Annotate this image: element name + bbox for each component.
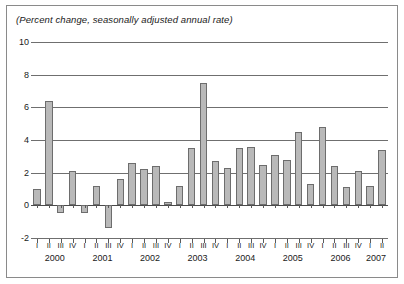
quarter-tick: [108, 205, 109, 208]
axis-tick: [61, 239, 62, 243]
axis-tick: [239, 239, 240, 243]
bar: [33, 189, 40, 205]
quarter-tick: [73, 205, 74, 208]
axis-tick: [204, 239, 205, 243]
bar: [355, 171, 362, 205]
quarter-tick: [180, 205, 181, 208]
axis-tick: [37, 239, 38, 243]
bar: [366, 186, 373, 206]
axis-tick: [311, 239, 312, 243]
quarter-tick: [311, 205, 312, 208]
quarter-tick: [120, 205, 121, 208]
chart-figure: (Percent change, seasonally adjusted ann…: [0, 0, 404, 284]
bar: [331, 166, 338, 205]
quarter-tick: [358, 205, 359, 208]
axis-tick: [192, 239, 193, 243]
axis-tick: [180, 239, 181, 243]
quarter-tick: [299, 205, 300, 208]
bar: [200, 83, 207, 206]
year-label: 2007: [366, 253, 386, 263]
plot-area: [31, 42, 388, 238]
year-label: 2006: [330, 253, 350, 263]
axis-tick: [346, 239, 347, 243]
year-label: 2000: [45, 253, 65, 263]
bar: [259, 165, 266, 206]
bar: [307, 184, 314, 205]
axis-tick: [73, 239, 74, 243]
year-label: 2001: [92, 253, 112, 263]
axis-tick: [96, 239, 97, 243]
bar: [188, 148, 195, 205]
axis-tick: [144, 239, 145, 243]
quarter-tick: [132, 205, 133, 208]
quarter-tick: [382, 205, 383, 208]
quarter-tick: [85, 205, 86, 208]
bar: [140, 169, 147, 205]
y-tick-label: 4: [3, 135, 29, 145]
quarter-tick: [156, 205, 157, 208]
axis-tick: [85, 239, 86, 243]
x-axis-labels: IIIIIIIV2000IIIIIIIV2001IIIIIIIV2002IIII…: [31, 239, 388, 279]
bar: [212, 161, 219, 205]
y-tick-label: 10: [3, 37, 29, 47]
quarter-tick: [215, 205, 216, 208]
bar: [128, 163, 135, 205]
quarter-tick: [227, 205, 228, 208]
axis-tick: [215, 239, 216, 243]
quarter-tick: [370, 205, 371, 208]
quarter-tick: [334, 205, 335, 208]
year-label: 2005: [283, 253, 303, 263]
year-label: 2002: [140, 253, 160, 263]
axis-tick: [227, 239, 228, 243]
bar: [378, 150, 385, 206]
axis-tick: [358, 239, 359, 243]
axis-tick: [168, 239, 169, 243]
bar: [69, 171, 76, 205]
bar: [152, 166, 159, 205]
quarter-tick: [263, 205, 264, 208]
axis-tick: [120, 239, 121, 243]
axis-tick: [382, 239, 383, 243]
axis-tick: [108, 239, 109, 243]
bar: [283, 160, 290, 206]
axis-tick: [251, 239, 252, 243]
bar: [236, 148, 243, 205]
axis-tick: [49, 239, 50, 243]
quarter-tick: [346, 205, 347, 208]
axis-tick: [334, 239, 335, 243]
y-tick-label: 0: [3, 200, 29, 210]
y-axis-labels: -20246810: [0, 42, 29, 238]
bar: [93, 186, 100, 206]
bar: [271, 155, 278, 206]
axis-tick: [156, 239, 157, 243]
quarter-tick: [49, 205, 50, 208]
bar: [105, 205, 112, 228]
y-tick-label: 2: [3, 168, 29, 178]
quarter-tick: [37, 205, 38, 208]
axis-tick: [323, 239, 324, 243]
quarter-tick: [192, 205, 193, 208]
quarter-tick: [61, 205, 62, 208]
bar: [224, 168, 231, 206]
quarter-tick: [168, 205, 169, 208]
year-label: 2004: [235, 253, 255, 263]
bar-series: [31, 42, 388, 238]
quarter-tick: [204, 205, 205, 208]
quarter-tick: [96, 205, 97, 208]
quarter-tick: [239, 205, 240, 208]
axis-tick: [132, 239, 133, 243]
axis-tick: [275, 239, 276, 243]
quarter-tick: [275, 205, 276, 208]
y-tick-label: -2: [3, 233, 29, 243]
axis-tick: [287, 239, 288, 243]
quarter-tick: [251, 205, 252, 208]
axis-tick: [263, 239, 264, 243]
axis-tick: [299, 239, 300, 243]
bar: [295, 132, 302, 206]
y-tick-label: 8: [3, 70, 29, 80]
axis-tick: [370, 239, 371, 243]
bar: [247, 147, 254, 206]
bar: [319, 127, 326, 205]
bar: [45, 101, 52, 206]
chart-title: (Percent change, seasonally adjusted ann…: [16, 14, 233, 25]
